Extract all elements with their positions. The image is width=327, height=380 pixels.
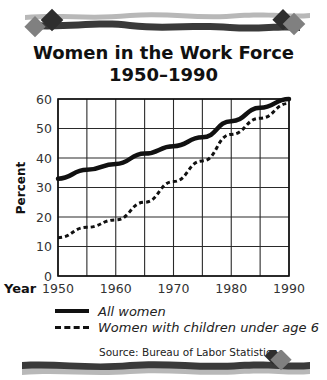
x-tick-label: 1990 bbox=[273, 281, 305, 296]
legend-item-women-children: Women with children under age 6 bbox=[55, 319, 319, 335]
y-axis-label: Percent bbox=[14, 162, 28, 215]
x-tick-label: 1970 bbox=[158, 281, 190, 296]
chart-grid bbox=[58, 99, 289, 276]
legend-label: All women bbox=[98, 304, 166, 319]
y-tick-label: 10 bbox=[36, 239, 52, 254]
y-tick-label: 50 bbox=[36, 121, 52, 136]
y-tick-label: 40 bbox=[36, 151, 52, 166]
legend-label: Women with children under age 6 bbox=[98, 320, 319, 335]
solid-line-icon bbox=[55, 309, 89, 313]
x-axis-ticks: 19501960197019801990 bbox=[42, 281, 305, 296]
line-chart: 0102030405060 19501960197019801990 Perce… bbox=[0, 0, 327, 300]
decorative-banner-bottom bbox=[0, 350, 327, 380]
y-tick-label: 60 bbox=[36, 92, 52, 107]
legend: All women Women with children under age … bbox=[55, 303, 319, 335]
y-axis-ticks: 0102030405060 bbox=[36, 92, 52, 284]
y-tick-label: 20 bbox=[36, 210, 52, 225]
x-axis-label: Year bbox=[3, 281, 37, 296]
x-tick-label: 1980 bbox=[215, 281, 247, 296]
y-tick-label: 30 bbox=[36, 180, 52, 195]
legend-item-all-women: All women bbox=[55, 303, 319, 319]
dashed-line-icon bbox=[55, 326, 89, 329]
x-tick-label: 1960 bbox=[100, 281, 132, 296]
x-tick-label: 1950 bbox=[42, 281, 74, 296]
